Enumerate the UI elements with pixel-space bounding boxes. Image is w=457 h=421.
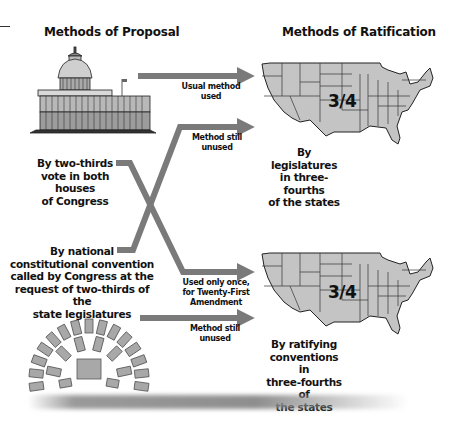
label-line: Usual method: [176, 82, 246, 92]
capitol-building-icon: [30, 47, 156, 133]
convention-seating-icon: [29, 319, 149, 391]
label-line: Method still: [182, 133, 252, 143]
label-line: used: [176, 92, 246, 102]
caption-line: request of two-thirds of the: [8, 283, 156, 308]
caption-line: called by Congress at the: [8, 270, 156, 283]
caption-line: By ratifying: [264, 338, 344, 351]
caption-congress: By two-thirds vote in both houses of Con…: [20, 157, 130, 207]
caption-line: of Congress: [20, 195, 130, 208]
label-line: for Twenty-First: [176, 288, 256, 298]
caption-line: By two-thirds: [20, 157, 130, 170]
caption-line: vote in both houses: [20, 170, 130, 195]
caption-line: By legislatures: [264, 146, 344, 171]
fraction-conventions: 3/4: [328, 282, 356, 302]
caption-legislatures: By legislatures in three-fourths of the …: [264, 146, 344, 209]
label-used-once: Used only once, for Twenty-First Amendme…: [176, 278, 256, 308]
caption-line: constitutional convention: [8, 258, 156, 271]
caption-line: in three-fourths: [264, 171, 344, 196]
label-line: unused: [180, 334, 250, 344]
label-line: Amendment: [176, 298, 256, 308]
bottom-shadow: [28, 395, 408, 409]
caption-convention: By national constitutional convention ca…: [8, 245, 156, 320]
caption-line: By national: [8, 245, 156, 258]
label-usual-method: Usual method used: [176, 82, 246, 102]
arrows-layer: [0, 0, 457, 421]
label-method-unused-2: Method still unused: [180, 324, 250, 344]
caption-line: state legislatures: [8, 308, 156, 321]
caption-line: of the states: [264, 196, 344, 209]
label-line: Used only once,: [176, 278, 256, 288]
fraction-legislatures: 3/4: [328, 91, 356, 111]
caption-line: conventions in: [264, 351, 344, 376]
label-line: unused: [182, 143, 252, 153]
label-method-unused-1: Method still unused: [182, 133, 252, 153]
label-line: Method still: [180, 324, 250, 334]
